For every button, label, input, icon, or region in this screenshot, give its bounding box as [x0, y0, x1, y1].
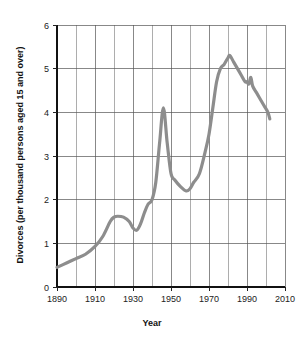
x-tick-label: 1890 [47, 294, 67, 304]
y-tick-label: 2 [44, 195, 49, 205]
y-tick-label: 6 [44, 21, 49, 31]
y-tick-label: 3 [44, 152, 49, 162]
x-tick-label: 1930 [123, 294, 143, 304]
y-tick-label: 5 [44, 64, 49, 74]
y-tick-label: 0 [44, 283, 49, 293]
x-axis-title: Year [142, 318, 162, 328]
x-tick-label: 1950 [161, 294, 181, 304]
x-tick-label: 1990 [237, 294, 257, 304]
y-axis-title: Divorces (per thousand persons aged 15 a… [15, 46, 25, 263]
x-tick-label: 1970 [199, 294, 219, 304]
x-tick-label: 2010 [275, 294, 295, 304]
divorce-rate-line [57, 55, 270, 267]
divorce-rate-chart: 1890191019301950197019902010 0123456 Yea… [0, 0, 304, 337]
y-axis-tick-labels: 0123456 [44, 21, 49, 293]
x-axis-tick-labels: 1890191019301950197019902010 [47, 294, 295, 304]
y-tick-label: 4 [44, 108, 49, 118]
chart-canvas: 1890191019301950197019902010 0123456 Yea… [0, 0, 304, 337]
x-tick-label: 1910 [85, 294, 105, 304]
y-tick-label: 1 [44, 239, 49, 249]
